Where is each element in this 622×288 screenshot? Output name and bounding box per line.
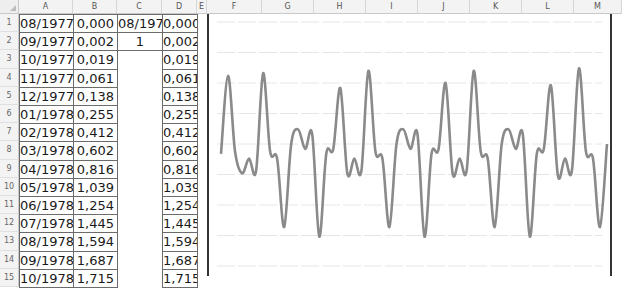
row-header[interactable]: 3	[0, 50, 19, 68]
cell-b3[interactable]: 0,019	[73, 50, 118, 69]
cell-b12[interactable]: 1,445	[73, 214, 118, 233]
cell-d5[interactable]: 0,138	[162, 87, 198, 106]
cell-a5[interactable]: 12/1977	[19, 87, 74, 106]
cell-c2[interactable]: 1	[117, 32, 163, 51]
column-header-a[interactable]: A	[19, 0, 73, 14]
cell-b11[interactable]: 1,254	[73, 196, 118, 215]
cell-d10[interactable]: 1,039	[162, 178, 198, 197]
column-header-d[interactable]: D	[162, 0, 197, 14]
row-header[interactable]: 1	[0, 14, 19, 32]
row-header[interactable]: 14	[0, 251, 19, 269]
row-header[interactable]: 8	[0, 141, 19, 159]
cell-d14[interactable]: 1,687	[162, 251, 198, 270]
cell-a8[interactable]: 03/1978	[19, 141, 74, 160]
cell-b5[interactable]: 0,138	[73, 87, 118, 106]
cell-a9[interactable]: 04/1978	[19, 160, 74, 179]
cell-c13[interactable]	[117, 232, 163, 251]
column-header-g[interactable]: G	[262, 0, 314, 14]
cell-c5[interactable]	[117, 87, 163, 106]
cell-a4[interactable]: 11/1977	[19, 69, 74, 88]
chart-plot-area	[209, 14, 610, 276]
cell-b4[interactable]: 0,061	[73, 69, 118, 88]
cell-b7[interactable]: 0,412	[73, 123, 118, 142]
cell-d9[interactable]: 0,816	[162, 160, 198, 179]
column-header-l[interactable]: L	[522, 0, 574, 14]
row-header[interactable]: 7	[0, 123, 19, 141]
cell-d8[interactable]: 0,602	[162, 141, 198, 160]
cell-d3[interactable]: 0,019	[162, 50, 198, 69]
cell-c1[interactable]: 08/1977	[117, 14, 163, 33]
column-header-c[interactable]: C	[117, 0, 162, 14]
cell-c14[interactable]	[117, 251, 163, 270]
cell-c9[interactable]	[117, 160, 163, 179]
cell-b8[interactable]: 0,602	[73, 141, 118, 160]
cell-a2[interactable]: 09/1977	[19, 32, 74, 51]
column-header-e[interactable]: E	[197, 0, 207, 14]
row-header[interactable]: 11	[0, 196, 19, 214]
row-header[interactable]: 5	[0, 87, 19, 105]
cell-d12[interactable]: 1,445	[162, 214, 198, 233]
cell-c10[interactable]	[117, 178, 163, 197]
cell-b9[interactable]: 0,816	[73, 160, 118, 179]
cell-c7[interactable]	[117, 123, 163, 142]
cell-c12[interactable]	[117, 214, 163, 233]
column-header-h[interactable]: H	[314, 0, 366, 14]
column-header-j[interactable]: J	[418, 0, 470, 14]
cell-d4[interactable]: 0,061	[162, 69, 198, 88]
cell-c8[interactable]	[117, 141, 163, 160]
cell-a13[interactable]: 08/1978	[19, 232, 74, 251]
cell-d1[interactable]: 0,000	[162, 14, 198, 33]
cell-b10[interactable]: 1,039	[73, 178, 118, 197]
cell-d15[interactable]: 1,715	[162, 269, 198, 288]
row-header[interactable]: 15	[0, 269, 19, 287]
row-header[interactable]: 2	[0, 32, 19, 50]
cell-a10[interactable]: 05/1978	[19, 178, 74, 197]
cell-d13[interactable]: 1,594	[162, 232, 198, 251]
line-chart[interactable]	[207, 14, 612, 276]
cell-d7[interactable]: 0,412	[162, 123, 198, 142]
cell-d11[interactable]: 1,254	[162, 196, 198, 215]
row-header[interactable]: 12	[0, 214, 19, 232]
cell-a1[interactable]: 08/1977	[19, 14, 74, 33]
cell-c3[interactable]	[117, 50, 163, 69]
row-header[interactable]: 6	[0, 105, 19, 123]
cell-c11[interactable]	[117, 196, 163, 215]
cell-b2[interactable]: 0,002	[73, 32, 118, 51]
column-header-b[interactable]: B	[73, 0, 117, 14]
row-header[interactable]: 9	[0, 160, 19, 178]
cell-a7[interactable]: 02/1978	[19, 123, 74, 142]
series-line[interactable]	[221, 68, 607, 237]
cell-a14[interactable]: 09/1978	[19, 251, 74, 270]
row-header[interactable]: 4	[0, 69, 19, 87]
cell-b1[interactable]: 0,000	[73, 14, 118, 33]
cell-c6[interactable]	[117, 105, 163, 124]
cell-b15[interactable]: 1,715	[73, 269, 118, 288]
column-header-k[interactable]: K	[470, 0, 522, 14]
cell-a12[interactable]: 07/1978	[19, 214, 74, 233]
cell-c15[interactable]	[117, 269, 163, 288]
cell-a6[interactable]: 01/1978	[19, 105, 74, 124]
cell-b14[interactable]: 1,687	[73, 251, 118, 270]
cell-a3[interactable]: 10/1977	[19, 50, 74, 69]
column-header-m[interactable]: M	[574, 0, 622, 14]
row-header[interactable]: 10	[0, 178, 19, 196]
column-header-i[interactable]: I	[366, 0, 418, 14]
cell-b13[interactable]: 1,594	[73, 232, 118, 251]
cell-a15[interactable]: 10/1978	[19, 269, 74, 288]
column-header-f[interactable]: F	[207, 0, 262, 14]
cell-d2[interactable]: 0,002	[162, 32, 198, 51]
select-all-corner[interactable]	[0, 0, 19, 14]
cell-a11[interactable]: 06/1978	[19, 196, 74, 215]
row-header[interactable]: 13	[0, 232, 19, 250]
cell-d6[interactable]: 0,255	[162, 105, 198, 124]
cell-c4[interactable]	[117, 69, 163, 88]
cell-b6[interactable]: 0,255	[73, 105, 118, 124]
